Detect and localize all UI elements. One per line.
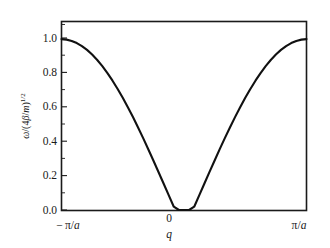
- x-tick-label-left: − π/a: [56, 219, 80, 231]
- y-axis-title: ω/(4β/m)1/2: [19, 93, 32, 139]
- x-axis-symbol: q: [166, 228, 172, 241]
- dispersion-chart: 0.0 0.2 0.4 0.6 0.8 1.0 ω/(4β/m)1/2 − π/…: [0, 0, 330, 248]
- plot-frame: [62, 22, 307, 211]
- x-tick-label-right: π/a: [292, 219, 307, 231]
- y-tick-label-3: 0.6: [43, 100, 58, 112]
- dispersion-curve: [62, 39, 307, 210]
- y-tick-label-1: 0.2: [43, 169, 58, 181]
- x-tick-label-center: 0: [166, 212, 172, 224]
- y-tick-label-4: 0.8: [43, 66, 58, 78]
- y-tick-label-0: 0.0: [43, 204, 58, 216]
- y-tick-label-5: 1.0: [43, 32, 58, 44]
- svg-text:ω/(4β/m)1/2: ω/(4β/m)1/2: [19, 93, 32, 139]
- y-axis-title-exponent: 1/2: [19, 93, 27, 102]
- y-tick-label-2: 0.4: [43, 135, 58, 147]
- figure-container: 0.0 0.2 0.4 0.6 0.8 1.0 ω/(4β/m)1/2 − π/…: [0, 0, 330, 248]
